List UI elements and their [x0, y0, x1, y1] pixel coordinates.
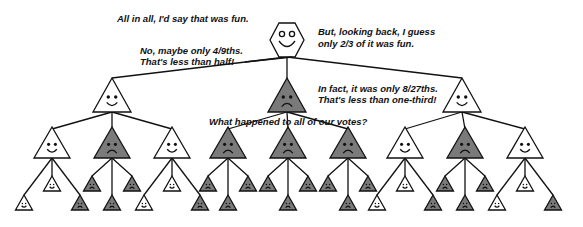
tree-edge — [328, 158, 348, 176]
sad-triangle-icon — [200, 176, 217, 191]
eye-icon — [246, 184, 248, 186]
sad-triangle-icon — [210, 127, 246, 158]
sad-triangle-icon — [260, 176, 277, 191]
leaf-node-sad — [72, 195, 89, 210]
eye-icon — [90, 184, 92, 186]
eye-icon — [201, 203, 203, 205]
sad-triangle-icon — [330, 127, 366, 158]
eye-icon — [407, 143, 410, 146]
eye-icon — [460, 143, 463, 146]
eye-icon — [173, 184, 175, 186]
eye-icon — [110, 203, 112, 205]
tree-edge — [112, 158, 132, 176]
eye-icon — [526, 184, 528, 186]
sad-triangle-icon — [84, 176, 101, 191]
sad-triangle-icon — [72, 195, 89, 210]
sad-triangle-icon — [192, 195, 209, 210]
leaf-node-sad — [477, 176, 494, 191]
caption-root-right-line1: But, looking back, I guess — [318, 26, 435, 37]
leaf-node-sad — [104, 195, 121, 210]
eye-icon — [326, 184, 328, 186]
tree-edge — [52, 112, 112, 129]
eye-icon — [114, 95, 117, 98]
eye-icon — [133, 184, 135, 186]
eye-icon — [230, 143, 233, 146]
tree-edge — [462, 112, 525, 129]
eye-icon — [145, 203, 147, 205]
eye-icon — [226, 203, 228, 205]
leaf-node-sad — [84, 176, 101, 191]
caption-mid-line1: In fact, it was only 8/27ths. — [318, 83, 438, 94]
eye-icon — [554, 203, 556, 205]
eye-icon — [266, 184, 268, 186]
level2-node-sad — [447, 127, 483, 158]
eye-icon — [47, 143, 50, 146]
eye-icon — [289, 203, 291, 205]
sad-triangle-icon — [270, 127, 306, 158]
eye-icon — [523, 184, 525, 186]
sad-triangle-icon — [437, 176, 454, 191]
sad-triangle-icon — [220, 195, 237, 210]
tree-edge — [92, 158, 112, 176]
leaf-node-happy — [44, 176, 61, 191]
tree-edge — [228, 158, 248, 176]
caption-root-right-line2: only 2/3 of it was fun. — [318, 38, 414, 49]
eye-icon — [290, 143, 293, 146]
sad-triangle-icon — [457, 195, 474, 210]
eye-icon — [107, 95, 110, 98]
eye-icon — [249, 184, 251, 186]
eye-icon — [349, 203, 351, 205]
tree-edge — [288, 158, 308, 176]
leaf-node-happy — [517, 176, 534, 191]
sad-triangle-icon — [124, 176, 141, 191]
leaf-node-sad — [124, 176, 141, 191]
tree-edge — [405, 112, 462, 129]
eye-icon — [54, 143, 57, 146]
eye-icon — [495, 203, 497, 205]
caption-root-top: All in all, I'd say that was fun. — [116, 13, 249, 24]
leaf-node-happy — [489, 195, 506, 210]
eye-icon — [114, 143, 117, 146]
happy-triangle-icon — [34, 127, 70, 158]
tree-edge — [268, 158, 288, 176]
happy-triangle-icon — [507, 127, 543, 158]
leaf-node-sad — [340, 195, 357, 210]
eye-icon — [375, 203, 377, 205]
eye-icon — [434, 203, 436, 205]
eye-icon — [78, 203, 80, 205]
eye-icon — [369, 184, 371, 186]
eye-icon — [520, 143, 523, 146]
eye-icon — [167, 143, 170, 146]
eye-icon — [81, 203, 83, 205]
level2-node-sad — [330, 127, 366, 158]
sad-triangle-icon — [477, 176, 494, 191]
leaf-node-happy — [164, 176, 181, 191]
level1-node-happy — [443, 78, 481, 112]
eye-icon — [223, 143, 226, 146]
level1-node-happy — [93, 78, 131, 112]
eye-icon — [498, 203, 500, 205]
leaf-node-sad — [360, 176, 377, 191]
eye-icon — [306, 184, 308, 186]
eye-icon — [289, 95, 292, 98]
tree-edge — [112, 112, 172, 129]
eye-icon — [107, 143, 110, 146]
sad-triangle-icon — [447, 127, 483, 158]
sad-triangle-icon — [94, 127, 130, 158]
root-hexagon-node — [270, 23, 304, 57]
sad-triangle-icon — [320, 176, 337, 191]
eye-icon — [527, 143, 530, 146]
eye-icon — [463, 203, 465, 205]
level2-node-happy — [387, 127, 423, 158]
eye-icon — [286, 203, 288, 205]
leaf-node-happy — [397, 176, 414, 191]
eye-icon — [446, 184, 448, 186]
level1-node-sad — [268, 78, 306, 112]
level2-node-sad — [94, 127, 130, 158]
eye-icon — [289, 31, 294, 36]
caption-mid-line2: That's less than one-third! — [318, 94, 436, 105]
happy-triangle-icon — [93, 78, 131, 112]
eye-icon — [198, 203, 200, 205]
leaf-node-sad — [300, 176, 317, 191]
eye-icon — [346, 203, 348, 205]
